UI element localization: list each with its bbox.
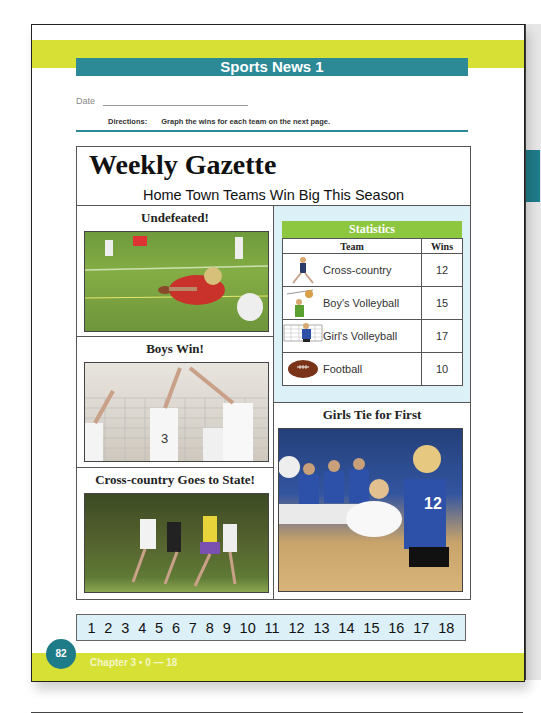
team-name: Girl's Volleyball <box>323 330 397 342</box>
directions-label: Directions: <box>108 117 147 126</box>
adjacent-page-tab <box>526 150 540 202</box>
svg-text:12: 12 <box>424 495 442 512</box>
number-1: 1 <box>87 620 95 636</box>
right-column: Statistics Team Wins Cross-country <box>274 206 470 599</box>
table-row: Football 10 <box>283 353 463 386</box>
svg-text:3: 3 <box>161 431 168 446</box>
number-11: 11 <box>265 620 280 636</box>
volleyball-girl-icon <box>283 321 323 351</box>
page-title: Sports News 1 <box>76 58 468 76</box>
number-18: 18 <box>438 620 454 636</box>
wins-value: 17 <box>422 320 463 353</box>
wins-value: 15 <box>422 287 463 320</box>
number-16: 16 <box>388 620 404 636</box>
directions: Directions: Graph the wins for each team… <box>108 117 330 126</box>
cross-country-photo <box>84 493 269 593</box>
page-number-badge: 82 <box>46 639 76 669</box>
number-17: 17 <box>413 620 429 636</box>
story-headline: Undefeated! <box>77 206 273 226</box>
story-cross-country: Cross-country Goes to State! <box>77 468 273 599</box>
football-player-icon <box>85 232 268 331</box>
chapter-label: Chapter 3 • 0 — 18 <box>90 657 177 668</box>
story-headline: Cross-country Goes to State! <box>77 468 273 488</box>
story-boys-volleyball: Boys Win! 3 <box>77 337 273 468</box>
newspaper-subtitle: Home Town Teams Win Big This Season <box>77 187 470 203</box>
statistics-panel: Statistics Team Wins Cross-country <box>274 206 470 403</box>
wins-value: 10 <box>422 353 463 386</box>
left-column: Undefeated! <box>77 206 274 599</box>
statistics-table: Team Wins Cross-country 12 <box>282 238 463 386</box>
newspaper-masthead: Weekly Gazette Home Town Teams Win Big T… <box>77 147 470 206</box>
number-13: 13 <box>313 620 329 636</box>
statistics-title: Statistics <box>282 221 462 238</box>
story-girls-volleyball: Girls Tie for First 12 <box>274 403 470 599</box>
football-photo <box>84 231 269 332</box>
date-blank-line[interactable] <box>103 97 248 106</box>
story-headline: Girls Tie for First <box>274 403 470 423</box>
boys-volleyball-photo: 3 <box>84 362 269 462</box>
date-field: Date <box>76 96 248 106</box>
worksheet-page: Sports News 1 Date Directions: Graph the… <box>31 24 525 682</box>
team-name: Football <box>323 363 362 375</box>
adjacent-page-edge <box>525 24 541 680</box>
story-headline: Boys Win! <box>77 337 273 357</box>
number-9: 9 <box>223 620 231 636</box>
newspaper: Weekly Gazette Home Town Teams Win Big T… <box>76 146 471 600</box>
wins-value: 12 <box>422 254 463 287</box>
column-header-team: Team <box>283 239 422 254</box>
directions-divider <box>76 130 468 132</box>
number-8: 8 <box>206 620 214 636</box>
volleyball-boy-icon <box>283 288 323 318</box>
table-row: Boy's Volleyball 15 <box>283 287 463 320</box>
team-name: Boy's Volleyball <box>323 297 399 309</box>
team-name: Cross-country <box>323 264 391 276</box>
story-football: Undefeated! <box>77 206 273 337</box>
runners-icon <box>85 494 268 592</box>
table-row: Girl's Volleyball 17 <box>283 320 463 353</box>
number-3: 3 <box>121 620 129 636</box>
date-label: Date <box>76 96 95 106</box>
number-4: 4 <box>138 620 146 636</box>
runner-icon <box>283 255 323 285</box>
number-line: 1 2 3 4 5 6 7 8 9 10 11 12 13 14 15 16 1… <box>76 614 466 641</box>
number-7: 7 <box>189 620 197 636</box>
football-icon <box>283 354 323 384</box>
newspaper-title: Weekly Gazette <box>89 149 276 181</box>
number-2: 2 <box>104 620 112 636</box>
volleyball-players-icon: 3 <box>85 363 268 461</box>
directions-text: Graph the wins for each team on the next… <box>161 117 330 126</box>
number-10: 10 <box>240 620 256 636</box>
girls-volleyball-photo: 12 <box>278 428 463 592</box>
number-6: 6 <box>172 620 180 636</box>
number-12: 12 <box>288 620 304 636</box>
number-5: 5 <box>155 620 163 636</box>
volleyball-girls-icon: 12 <box>279 429 462 591</box>
column-header-wins: Wins <box>422 239 463 254</box>
table-row: Cross-country 12 <box>283 254 463 287</box>
number-14: 14 <box>338 620 354 636</box>
number-15: 15 <box>363 620 379 636</box>
